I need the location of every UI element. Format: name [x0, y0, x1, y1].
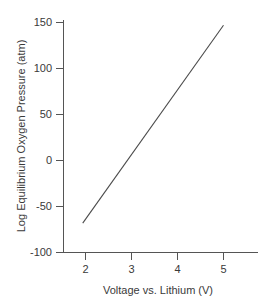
- x-tick-label-3: 3: [128, 263, 134, 275]
- x-axis-title: Voltage vs. Lithium (V): [103, 284, 213, 296]
- y-tick-label-0: 0: [46, 154, 52, 166]
- y-axis-title: Log Equilibrium Oxygen Pressure (atm): [15, 40, 27, 233]
- y-tick-label-150: 150: [34, 16, 52, 28]
- y-tick-label-neg100: -100: [30, 246, 52, 258]
- y-tick-label-50: 50: [40, 108, 52, 120]
- y-tick-label-neg50: -50: [36, 200, 52, 212]
- x-tick-label-5: 5: [220, 263, 226, 275]
- x-tick-label-4: 4: [174, 263, 180, 275]
- line-chart-plot: 150 100 50 0 -50 -100 2 3 4 5 Voltage vs…: [0, 0, 268, 308]
- y-tick-label-100: 100: [34, 62, 52, 74]
- x-tick-label-2: 2: [82, 263, 88, 275]
- chart-figure: 150 100 50 0 -50 -100 2 3 4 5 Voltage vs…: [0, 0, 268, 308]
- data-series-line: [83, 25, 224, 223]
